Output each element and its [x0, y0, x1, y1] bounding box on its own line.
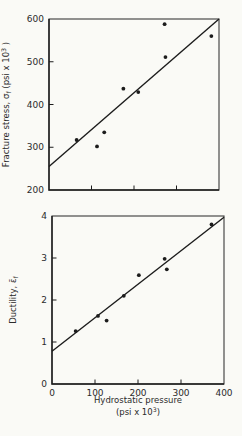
ductility-data-points — [74, 223, 214, 333]
ductility-fit-line — [52, 217, 224, 351]
ductility-axes — [52, 216, 224, 384]
ductility-point — [74, 329, 78, 333]
ductility-ytick-label: 3 — [41, 253, 47, 263]
ductility-ytick-label: 1 — [41, 337, 47, 347]
ductility-point — [137, 273, 141, 277]
ductility-point — [163, 257, 167, 261]
ductility-point — [105, 319, 109, 323]
ductility-x-axis-units: (psi x 103) — [116, 406, 160, 417]
ductility-chart: 012340100200300400Ductility, ε̄fHydrosta… — [0, 0, 242, 436]
ductility-ytick-label: 2 — [41, 295, 47, 305]
ductility-point — [165, 267, 169, 271]
ductility-ytick-label: 4 — [41, 211, 47, 221]
ductility-y-axis-label: Ductility, ε̄f — [8, 275, 19, 323]
ductility-x-axis-label: Hydrostatic pressure — [94, 395, 182, 405]
figure-two-scatter-charts: 200300400500600Fracture stress, σf (psi … — [0, 0, 242, 436]
ductility-xtick-label: 0 — [49, 388, 55, 398]
ductility-point — [210, 223, 214, 227]
ductility-ytick-label: 0 — [41, 379, 47, 389]
ductility-point — [122, 294, 126, 298]
ductility-xtick-label: 400 — [215, 388, 232, 398]
ductility-point — [96, 314, 100, 318]
ductility-y-ticks: 01234 — [41, 211, 56, 389]
